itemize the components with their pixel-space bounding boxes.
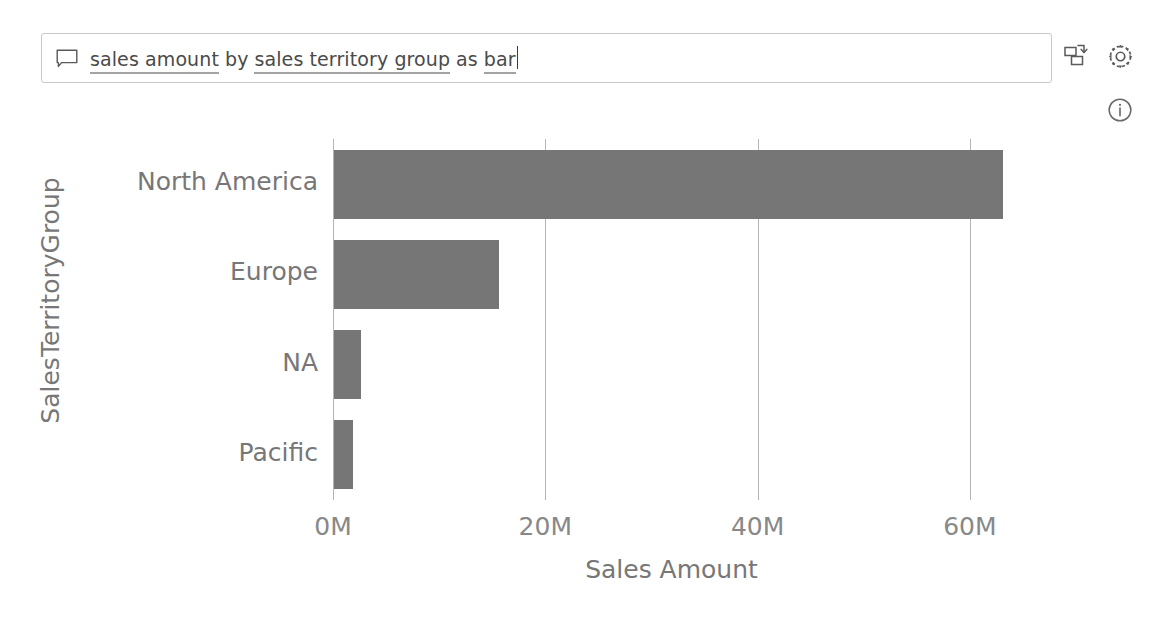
- qna-token: sales amount: [90, 47, 219, 74]
- speech-bubble-icon: [56, 49, 78, 69]
- qna-query-text: sales amountbysales territory groupasbar: [90, 43, 518, 74]
- bar[interactable]: [334, 420, 353, 489]
- gear-icon: [1107, 43, 1134, 74]
- qna-bar-row: sales amountbysales territory groupasbar: [0, 0, 1158, 130]
- qna-token: as: [456, 47, 478, 71]
- bar[interactable]: [334, 240, 499, 309]
- x-tick-label: 0M: [273, 512, 393, 541]
- convert-to-visual-icon: [1064, 44, 1090, 72]
- category-label: North America: [137, 167, 318, 196]
- x-axis-title: Sales Amount: [333, 555, 1010, 584]
- info-button[interactable]: [1105, 97, 1135, 127]
- qna-token: sales territory group: [254, 47, 450, 74]
- x-tick-label: 20M: [485, 512, 605, 541]
- qna-token: bar: [484, 47, 516, 74]
- x-tick-label: 60M: [910, 512, 1030, 541]
- category-label: NA: [282, 348, 318, 377]
- category-label: Pacific: [239, 438, 318, 467]
- text-cursor: [517, 46, 518, 69]
- y-axis-category-labels: North AmericaEuropeNAPacific: [0, 139, 318, 500]
- category-label: Europe: [230, 257, 318, 286]
- bar-chart[interactable]: SalesTerritoryGroup North AmericaEuropeN…: [0, 126, 1158, 620]
- info-circle-icon: [1107, 97, 1133, 127]
- x-tick-label: 40M: [698, 512, 818, 541]
- settings-button[interactable]: [1105, 43, 1135, 73]
- qna-token: by: [225, 47, 249, 71]
- bar[interactable]: [334, 150, 1003, 219]
- plot-area[interactable]: [333, 139, 1023, 500]
- convert-visual-button[interactable]: [1062, 43, 1092, 73]
- qna-search-input[interactable]: sales amountbysales territory groupasbar: [41, 33, 1052, 83]
- bar[interactable]: [334, 330, 361, 399]
